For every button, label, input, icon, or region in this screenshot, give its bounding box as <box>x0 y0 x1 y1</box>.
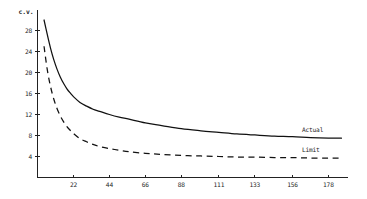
x-axis-tick-labels: 22446688111133156178 <box>70 181 334 188</box>
x-tick-label: 66 <box>142 181 150 188</box>
x-tick-label: 44 <box>106 181 114 188</box>
chart-container: 481216202428 22446688111133156178 c.v. A… <box>0 0 367 199</box>
y-tick-label: 20 <box>25 69 33 76</box>
x-tick-label: 88 <box>178 181 186 188</box>
y-tick-label: 24 <box>25 48 33 55</box>
y-tick-label: 8 <box>28 132 32 139</box>
series-line-actual <box>44 20 341 138</box>
series-line-limit <box>44 46 341 158</box>
y-axis-title: c.v. <box>19 8 34 16</box>
series-label-actual: Actual <box>302 126 324 133</box>
y-tick-label: 28 <box>25 27 33 34</box>
y-tick-label: 12 <box>25 111 33 118</box>
x-tick-label: 133 <box>250 181 261 188</box>
x-tick-label: 111 <box>214 181 225 188</box>
x-tick-label: 22 <box>70 181 78 188</box>
y-tick-label: 4 <box>28 153 32 160</box>
line-chart: 481216202428 22446688111133156178 c.v. A… <box>0 0 367 199</box>
y-tick-label: 16 <box>25 90 33 97</box>
x-tick-label: 156 <box>287 181 298 188</box>
x-tick-label: 178 <box>323 181 334 188</box>
y-axis-tick-labels: 481216202428 <box>25 27 33 160</box>
series-label-limit: Limit <box>302 146 320 153</box>
